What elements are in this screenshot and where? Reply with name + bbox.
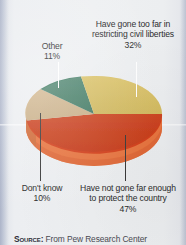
pie-label-toofar-line1: Have gone too far in (96, 19, 170, 29)
pie-label-other: Other 11% (26, 41, 78, 62)
pie-chart (24, 62, 164, 174)
scanned-chart-figure: Have gone too far in restricting civil l… (0, 0, 186, 245)
leader-line-notfar (125, 135, 126, 181)
pie-label-toofar-line2: restricting civil liberties (92, 29, 174, 39)
pie-label-notfar-line2: to protect the country (89, 193, 166, 203)
page-edge-shadow-left (0, 0, 9, 245)
pie-label-notfar-pct: 47% (72, 204, 184, 214)
pie-label-notfar-line1: Have not gone far enough (80, 183, 176, 193)
leader-line-other (58, 62, 59, 88)
pie-label-toofar-pct: 32% (83, 40, 183, 50)
pie-label-dontknow-line1: Don't know (22, 183, 63, 193)
pie-label-dontknow: Don't know 10% (8, 183, 76, 204)
pie-label-other-pct: 11% (26, 51, 78, 61)
leader-line-toofar (136, 62, 137, 97)
source-kicker: Source: (14, 234, 43, 244)
source-text: From Pew Research Center (43, 234, 147, 244)
pie-label-other-line1: Other (42, 41, 63, 51)
pie-label-toofar: Have gone too far in restricting civil l… (83, 19, 183, 50)
leader-line-dontknow (40, 113, 41, 181)
pie-label-notfar: Have not gone far enough to protect the … (72, 183, 184, 214)
pie-sheen (26, 76, 162, 152)
pie-chart-svg (24, 62, 164, 174)
source-note: Source: From Pew Research Center (14, 234, 186, 244)
pie-label-dontknow-pct: 10% (8, 193, 76, 203)
